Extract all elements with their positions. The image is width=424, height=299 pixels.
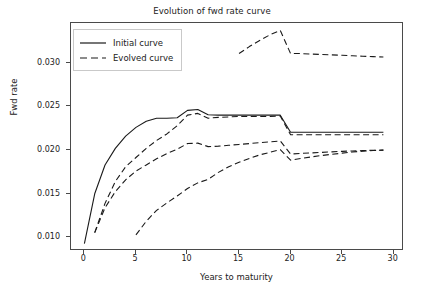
series-line-2: [95, 141, 384, 233]
legend-entry-initial-curve: Initial curve: [80, 35, 173, 50]
chart-title: Evolution of fwd rate curve: [0, 6, 424, 16]
legend-entry-evolved-curve: Evolved curve: [80, 50, 173, 65]
y-tick-label: 0.030: [14, 57, 60, 66]
x-tick-label: 15: [223, 254, 253, 263]
y-tick-label: 0.015: [14, 188, 60, 197]
plot-area: Initial curve Evolved curve: [70, 22, 403, 250]
x-tick-label: 10: [171, 254, 201, 263]
series-line-3: [136, 150, 383, 235]
y-tick-label: 0.025: [14, 101, 60, 110]
legend-line-dashed-icon: [80, 53, 106, 63]
chart-legend: Initial curve Evolved curve: [73, 29, 182, 71]
x-tick-label: 0: [68, 254, 98, 263]
series-line-1: [95, 113, 384, 232]
y-tick-label: 0.020: [14, 145, 60, 154]
legend-label-initial-curve: Initial curve: [113, 38, 163, 48]
x-tick-label: 20: [275, 254, 305, 263]
legend-line-solid-icon: [80, 38, 106, 48]
legend-label-evolved-curve: Evolved curve: [113, 53, 173, 63]
chart-figure: Evolution of fwd rate curve Fwd rate Yea…: [0, 0, 424, 299]
x-tick-label: 25: [326, 254, 356, 263]
x-tick-label: 5: [120, 254, 150, 263]
series-line-4: [239, 30, 383, 57]
y-tick-label: 0.010: [14, 232, 60, 241]
x-axis-label: Years to maturity: [70, 272, 403, 282]
x-tick-label: 30: [378, 254, 408, 263]
